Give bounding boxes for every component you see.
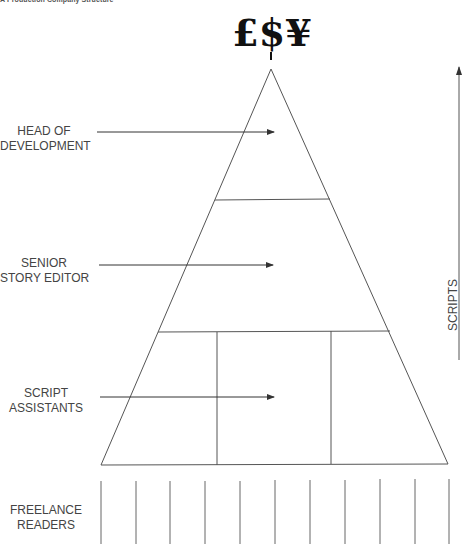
- pyramid-outline: [101, 69, 448, 465]
- label-freelance-readers: FREELANCE READERS: [6, 503, 86, 533]
- tier-divider-top: [215, 199, 330, 200]
- tier-divider-middle: [158, 331, 390, 332]
- label-senior-story-editor: SENIOR STORY EDITOR: [0, 256, 88, 286]
- label-head-of-development: HEAD OF DEVELOPMENT: [0, 124, 88, 154]
- label-script-assistants: SCRIPT ASSISTANTS: [4, 386, 88, 416]
- freelance-reader-lines: [101, 479, 449, 544]
- scripts-axis-label: SCRIPTS: [446, 277, 460, 333]
